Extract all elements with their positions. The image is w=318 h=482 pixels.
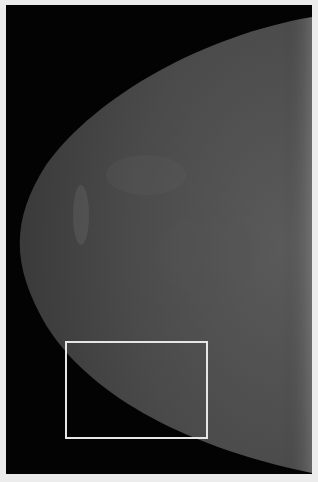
mammogram-image bbox=[6, 5, 312, 474]
region-of-interest-box bbox=[65, 341, 208, 439]
